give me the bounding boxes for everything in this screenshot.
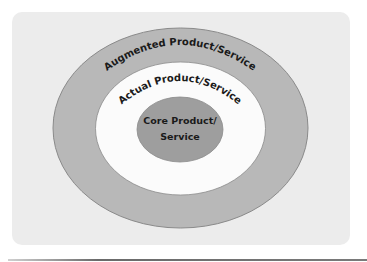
core-product-label-line1: Core Product/ xyxy=(143,115,217,126)
core-product-label-line2: Service xyxy=(160,131,200,142)
product-levels-diagram: Augmented Product/Service Actual Product… xyxy=(0,0,367,262)
bottom-divider xyxy=(8,259,367,261)
core-product-ellipse xyxy=(137,97,223,162)
